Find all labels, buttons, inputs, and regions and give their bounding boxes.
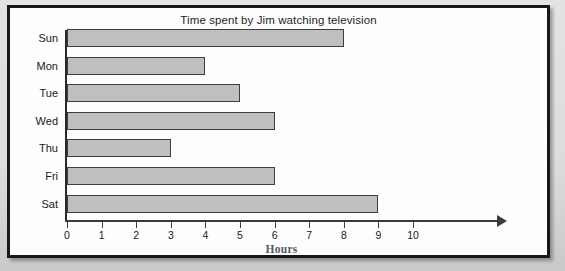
x-tick-label-1: 1 bbox=[99, 229, 105, 241]
x-tick-1 bbox=[102, 222, 103, 228]
x-tick-label-4: 4 bbox=[202, 229, 208, 241]
x-tick-label-10: 10 bbox=[407, 229, 419, 241]
plot-area: 012345678910 SunMonTueWedThuFriSat Hours bbox=[10, 8, 553, 261]
bar-wed bbox=[67, 112, 275, 130]
x-tick-label-0: 0 bbox=[64, 229, 70, 241]
x-tick-7 bbox=[309, 222, 310, 228]
category-label-thu: Thu bbox=[39, 142, 58, 154]
category-label-wed: Wed bbox=[36, 115, 58, 127]
chart-canvas: Time spent by Jim watching television 01… bbox=[10, 8, 547, 255]
bar-thu bbox=[67, 139, 171, 157]
x-tick-2 bbox=[136, 222, 137, 228]
x-tick-label-3: 3 bbox=[168, 229, 174, 241]
x-tick-5 bbox=[240, 222, 241, 228]
bar-tue bbox=[67, 84, 240, 102]
bar-sun bbox=[67, 29, 344, 47]
bar-sat bbox=[67, 195, 378, 213]
x-axis-line bbox=[65, 220, 500, 222]
x-tick-10 bbox=[413, 222, 414, 228]
chart-frame: Time spent by Jim watching television 01… bbox=[7, 5, 550, 258]
x-tick-label-9: 9 bbox=[375, 229, 381, 241]
x-tick-label-8: 8 bbox=[341, 229, 347, 241]
page-background: Time spent by Jim watching television 01… bbox=[0, 0, 565, 271]
x-tick-3 bbox=[171, 222, 172, 228]
x-axis-title: Hours bbox=[10, 243, 553, 255]
x-tick-0 bbox=[67, 222, 68, 228]
x-tick-4 bbox=[205, 222, 206, 228]
x-tick-label-5: 5 bbox=[237, 229, 243, 241]
x-tick-label-2: 2 bbox=[133, 229, 139, 241]
bar-fri bbox=[67, 167, 275, 185]
x-tick-9 bbox=[378, 222, 379, 228]
category-label-sun: Sun bbox=[38, 32, 58, 44]
category-label-sat: Sat bbox=[41, 198, 58, 210]
x-tick-label-6: 6 bbox=[272, 229, 278, 241]
x-tick-6 bbox=[275, 222, 276, 228]
category-label-tue: Tue bbox=[39, 87, 58, 99]
x-tick-label-7: 7 bbox=[306, 229, 312, 241]
category-label-fri: Fri bbox=[45, 170, 58, 182]
x-tick-8 bbox=[344, 222, 345, 228]
category-label-mon: Mon bbox=[37, 60, 58, 72]
bar-mon bbox=[67, 57, 205, 75]
x-axis-arrow-icon bbox=[497, 215, 507, 227]
